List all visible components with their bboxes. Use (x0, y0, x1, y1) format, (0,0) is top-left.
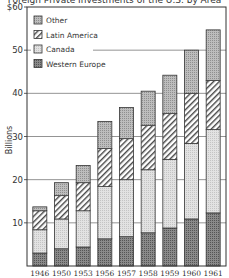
y-tick-label: 20 (12, 175, 23, 185)
segment-canada (76, 211, 90, 247)
bar-1956 (98, 121, 112, 266)
bar-1958 (141, 91, 155, 266)
legend-swatch (34, 16, 42, 24)
x-tick-label: 1956 (95, 269, 114, 278)
segment-latin-america (141, 125, 155, 169)
x-tick-label: 1953 (74, 269, 93, 278)
legend-label: Other (46, 16, 68, 25)
bar-1946 (33, 207, 47, 266)
segment-other (185, 50, 199, 93)
segment-western-europe (141, 233, 155, 266)
segment-western-europe (98, 239, 112, 266)
x-tick-label: 1958 (139, 269, 158, 278)
segment-western-europe (76, 247, 90, 266)
segment-latin-america (76, 183, 90, 211)
segment-canada (141, 170, 155, 233)
segment-other (76, 165, 90, 182)
legend-label: Latin America (46, 31, 98, 40)
segment-western-europe (185, 219, 199, 266)
segment-other (55, 183, 69, 196)
segment-other (141, 91, 155, 125)
legend-item-other: Other (34, 16, 68, 25)
segment-canada (120, 180, 134, 237)
segment-canada (55, 219, 69, 249)
y-axis-label: Billions (5, 126, 14, 155)
stacked-bar-chart: 1020304050$60Billions1946195019531956195… (0, 0, 229, 278)
y-tick-label: $60 (7, 2, 23, 12)
segment-other (120, 108, 134, 139)
x-tick-label: 1946 (30, 269, 49, 278)
legend-swatch (34, 31, 42, 39)
segment-western-europe (206, 213, 220, 266)
bar-1957 (120, 108, 134, 266)
segment-latin-america (163, 114, 177, 160)
bar-1953 (76, 165, 90, 266)
segment-latin-america (206, 80, 220, 129)
x-tick-label: 1959 (160, 269, 179, 278)
segment-canada (33, 230, 47, 253)
segment-western-europe (163, 228, 177, 266)
y-tick-label: 40 (12, 88, 23, 98)
segment-canada (98, 187, 112, 239)
x-tick-label: 1960 (182, 269, 201, 278)
segment-canada (163, 159, 177, 228)
segment-canada (185, 143, 199, 219)
segment-western-europe (120, 237, 134, 266)
legend-swatch (34, 45, 42, 53)
x-tick-label: 1950 (52, 269, 71, 278)
segment-other (33, 207, 47, 211)
segment-other (163, 75, 177, 113)
segment-western-europe (33, 253, 47, 266)
segment-latin-america (120, 139, 134, 180)
segment-western-europe (55, 249, 69, 266)
legend-label: Canada (46, 45, 75, 54)
segment-latin-america (33, 211, 47, 230)
x-tick-label: 1961 (204, 269, 223, 278)
bar-1960 (185, 50, 199, 266)
segment-latin-america (98, 149, 112, 187)
y-tick-label: 10 (12, 218, 23, 228)
segment-canada (206, 130, 220, 213)
bar-1959 (163, 75, 177, 266)
segment-latin-america (185, 93, 199, 143)
bar-1961 (206, 30, 220, 266)
legend-label: Western Europe (46, 60, 106, 69)
legend-item-canada: Canada (34, 45, 75, 54)
bar-1950 (55, 183, 69, 266)
segment-other (206, 30, 220, 81)
y-tick-label: 50 (12, 45, 23, 55)
segment-latin-america (55, 196, 69, 219)
legend-swatch (34, 60, 42, 68)
segment-other (98, 121, 112, 148)
x-tick-label: 1957 (117, 269, 136, 278)
